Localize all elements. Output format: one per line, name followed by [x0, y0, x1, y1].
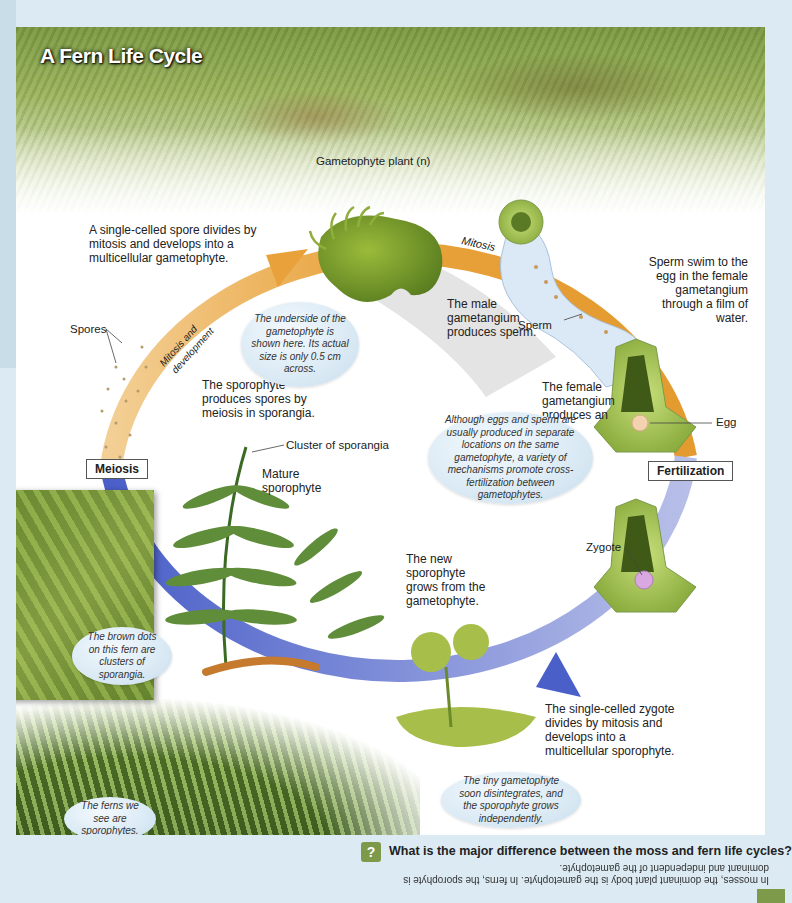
diagram-panel: A Fern Life Cycle [16, 27, 765, 835]
note-ferns-we-see: The ferns we see are sporophytes. [64, 797, 156, 835]
stage-meiosis: Meiosis [86, 459, 148, 479]
note-brown-dots: The brown dots on this fern are clusters… [72, 627, 172, 685]
label-egg: Egg [716, 416, 736, 428]
question-text: What is the major difference between the… [389, 844, 792, 858]
zygote-icon [635, 571, 653, 589]
note-tiny-gametophyte: The tiny gametophyte soon disintegrates,… [441, 772, 581, 828]
label-zygote: Zygote [586, 541, 621, 553]
egg-icon [632, 415, 648, 431]
note-underside: The underside of the gametophyte is show… [241, 302, 359, 387]
question-icon: ? [361, 842, 381, 862]
left-edge-bar [0, 0, 16, 368]
desc-spore-divides: A single-celled spore divides by mitosis… [89, 223, 269, 265]
gametophyte-plant-icon [318, 216, 442, 302]
corner-tab [757, 889, 785, 903]
label-gametophyte-plant: Gametophyte plant (n) [316, 155, 430, 167]
desc-zygote-divides: The single-celled zygote divides by mito… [545, 702, 690, 758]
stage-fertilization: Fertilization [648, 461, 733, 481]
desc-new-sporophyte: The new sporophyte grows from the gameto… [406, 552, 486, 608]
question-bar: ? What is the major difference between t… [345, 838, 765, 890]
answer-text-inverted: In mosses, the dominant plant body is th… [389, 862, 769, 886]
rhizome-icon [206, 661, 316, 672]
label-mature-sporophyte: Mature sporophyte [262, 467, 352, 495]
desc-male-gametangium: The male gametangium produces sperm. [447, 297, 542, 339]
desc-sperm-swim: Sperm swim to the egg in the female game… [638, 255, 748, 325]
label-spores: Spores [70, 323, 106, 335]
label-cluster-sporangia: Cluster of sporangia [286, 439, 389, 451]
note-cross-fertilization: Although eggs and sperm are usually prod… [428, 412, 593, 504]
